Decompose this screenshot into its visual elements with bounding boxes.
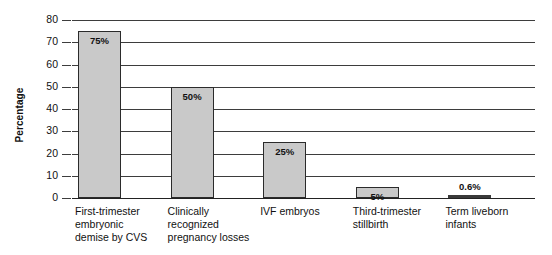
plot-area: 75%50%25%5%0.6% <box>72 20 535 198</box>
y-tick-mark <box>62 87 71 88</box>
y-tick-mark <box>62 42 71 43</box>
x-axis-label: First-trimester embryonic demise by CVS <box>75 205 164 245</box>
y-tick-mark <box>62 198 71 199</box>
bar-value-label: 0.6% <box>448 181 491 192</box>
x-axis-label: Term liveborn infants <box>445 205 534 231</box>
gridline <box>72 109 535 110</box>
y-tick-label: 40 <box>34 102 58 114</box>
gridline <box>72 42 535 43</box>
y-axis-title: Percentage <box>14 60 28 170</box>
gridline <box>72 20 535 21</box>
bar-value-label: 25% <box>263 146 306 157</box>
y-tick-label: 80 <box>34 13 58 25</box>
gridline <box>72 87 535 88</box>
bar-chart: Percentage 01020304050607080 75%50%25%5%… <box>0 0 552 255</box>
y-tick-label: 0 <box>34 191 58 203</box>
y-tick-label: 10 <box>34 169 58 181</box>
y-tick-label: 50 <box>34 80 58 92</box>
bar <box>448 195 491 199</box>
x-axis-label: Third-trimester stillbirth <box>353 205 442 231</box>
gridline <box>72 131 535 132</box>
y-tick-mark <box>62 109 71 110</box>
y-tick-mark <box>62 65 71 66</box>
y-tick-label: 30 <box>34 124 58 136</box>
x-axis-label: IVF embryos <box>260 205 349 218</box>
y-tick-label: 20 <box>34 147 58 159</box>
bar-value-label: 5% <box>356 191 399 202</box>
y-tick-mark <box>62 154 71 155</box>
gridline <box>72 65 535 66</box>
y-tick-label: 70 <box>34 35 58 47</box>
bar-value-label: 50% <box>171 91 214 102</box>
y-tick-mark <box>62 20 71 21</box>
y-tick-label: 60 <box>34 58 58 70</box>
y-tick-mark <box>62 176 71 177</box>
bar <box>171 87 214 198</box>
bar-value-label: 75% <box>78 35 121 46</box>
x-axis-baseline <box>72 198 535 199</box>
x-axis-label: Clinically recognized pregnancy losses <box>168 205 257 245</box>
bar <box>78 31 121 198</box>
y-tick-mark <box>62 131 71 132</box>
